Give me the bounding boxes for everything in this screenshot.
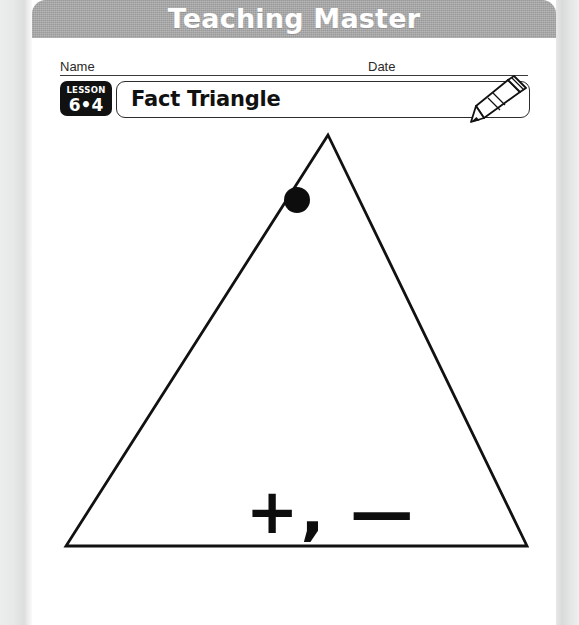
lesson-badge: LESSON 6•4 (60, 81, 112, 116)
name-date-row: Name Date (60, 53, 528, 76)
lesson-number-label: 6•4 (60, 96, 112, 114)
lesson-word-label: LESSON (60, 81, 112, 96)
date-label: Date (368, 59, 395, 74)
worksheet-screenshot: Teaching Master Name Date LESSON 6•4 Fac… (0, 0, 579, 625)
banner-title: Teaching Master (32, 0, 556, 38)
pencil-icon (462, 74, 534, 126)
activity-title: Fact Triangle (131, 82, 281, 117)
name-label: Name (60, 59, 95, 74)
fact-triangle-dot (284, 187, 310, 213)
operators-label: +, — (228, 477, 433, 547)
fact-triangle-canvas: +, — (32, 125, 556, 595)
teaching-master-banner: Teaching Master (32, 0, 556, 38)
